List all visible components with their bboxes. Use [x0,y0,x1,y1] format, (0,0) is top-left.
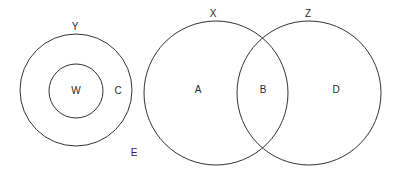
region-label-a: A [195,85,202,95]
venn-diagram: Y W X Z C A B D E [0,0,398,173]
set-label-x: X [210,9,217,19]
circle-z [237,21,381,165]
region-label-e: E [131,148,138,158]
set-label-w: W [71,86,80,96]
region-label-c: C [114,86,121,96]
set-label-z: Z [305,9,311,19]
set-label-y: Y [72,22,79,32]
region-label-d: D [332,85,339,95]
region-label-b: B [260,85,267,95]
